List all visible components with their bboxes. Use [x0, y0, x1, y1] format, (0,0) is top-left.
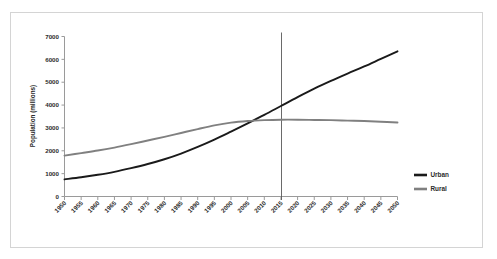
x-axis-tick-label: 1960	[86, 199, 101, 214]
series-line-urban	[65, 51, 398, 179]
y-axis-tick-label: 7000	[45, 33, 59, 40]
y-axis-tick-label: 5000	[45, 78, 59, 85]
x-axis-tick-labels: 1950195519601965197019751980198519901995…	[53, 199, 401, 214]
y-axis-tick-label: 6000	[45, 56, 59, 63]
legend-label-urban: Urban	[431, 171, 450, 178]
x-axis-tick-label: 2045	[369, 199, 384, 214]
x-axis-tick-label: 1965	[103, 199, 118, 214]
y-axis-tick-label: 0	[56, 193, 60, 200]
y-axis-tick-label: 2000	[45, 147, 59, 154]
x-axis-tick-label: 2050	[386, 199, 401, 214]
x-axis-tick-label: 2015	[269, 199, 284, 214]
x-axis-tick-label: 2035	[336, 199, 351, 214]
x-axis-tick-label: 2010	[253, 199, 268, 214]
y-axis-tick-labels: 01000200030004000500060007000	[45, 33, 59, 200]
y-axis-tick-label: 1000	[45, 170, 59, 177]
x-axis-tick-label: 1990	[186, 199, 201, 214]
legend-label-rural: Rural	[431, 185, 448, 192]
x-axis-tick-label: 2005	[236, 199, 251, 214]
x-axis-tick-label: 1950	[53, 199, 68, 214]
x-axis-tick-label: 2030	[319, 199, 334, 214]
x-axis-tick-label: 2020	[286, 199, 301, 214]
chart-figure: 01000200030004000500060007000 1950195519…	[0, 0, 497, 259]
x-axis-tick-label: 1975	[136, 199, 151, 214]
chart-legend: UrbanRural	[414, 171, 449, 192]
x-axis-tick-label: 2025	[302, 199, 317, 214]
population-line-chart: 01000200030004000500060007000 1950195519…	[0, 0, 497, 259]
y-axis-tick-label: 3000	[45, 124, 59, 131]
y-axis-tick-label: 4000	[45, 101, 59, 108]
x-axis-tick-label: 1955	[69, 199, 84, 214]
y-axis-title: Population (millions)	[29, 85, 37, 147]
series-line-rural	[65, 120, 398, 156]
x-axis-tick-label: 1985	[169, 199, 184, 214]
x-axis-tick-label: 2000	[219, 199, 234, 214]
x-axis-tick-label: 1980	[153, 199, 168, 214]
chart-series-group	[65, 51, 398, 179]
x-axis-tick-label: 1970	[119, 199, 134, 214]
x-axis-ticks	[65, 197, 398, 201]
x-axis-tick-label: 1995	[203, 199, 218, 214]
x-axis-tick-label: 2040	[352, 199, 367, 214]
